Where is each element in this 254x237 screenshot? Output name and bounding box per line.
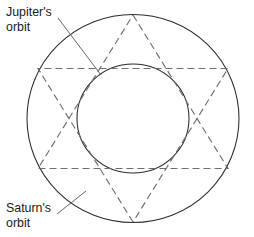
jupiter-label-leader-line [58,18,101,75]
saturn-orbit-label-line2: orbit [6,216,31,230]
jupiter-orbit-label-line2: orbit [6,20,31,34]
orbit-diagram-figure: Jupiter's orbit Saturn's orbit [0,0,254,237]
saturn-jupiter-conjunction-diagram: Jupiter's orbit Saturn's orbit [0,0,254,237]
jupiter-orbit-label-line1: Jupiter's [6,5,52,19]
saturn-orbit-label-line1: Saturn's [6,201,51,215]
saturn-orbit-ellipse [27,15,239,223]
jupiter-orbit-circle [77,64,189,173]
